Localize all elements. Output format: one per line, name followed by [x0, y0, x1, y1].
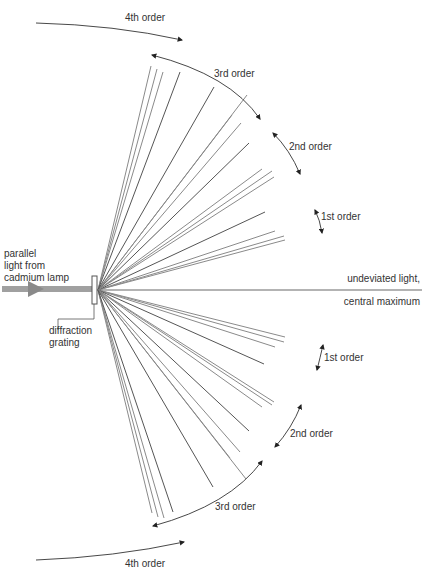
- label-1st-order-bottom: 1st order: [324, 352, 363, 364]
- diffracted-rays: [98, 66, 285, 518]
- label-grating: diffraction grating: [49, 325, 92, 349]
- label-3rd-order-top: 3rd order: [214, 68, 255, 80]
- diffracted-ray: [98, 87, 214, 290]
- grating-line-1: diffraction: [49, 325, 92, 337]
- diffracted-ray: [98, 290, 275, 347]
- diffracted-ray: [98, 290, 262, 407]
- source-line-3: cadmium lamp: [4, 272, 69, 284]
- arc-3rd-order-bottom: [153, 461, 262, 526]
- grating-line-2: grating: [49, 337, 92, 349]
- diffracted-ray: [98, 95, 247, 290]
- diffracted-ray: [98, 72, 163, 290]
- diffracted-ray: [98, 290, 274, 402]
- diffracted-ray: [98, 290, 264, 364]
- diffracted-ray: [98, 240, 285, 290]
- arc-2nd-order-bottom: [275, 405, 301, 447]
- diffracted-ray: [98, 290, 285, 337]
- arc-3rd-order-top: [152, 55, 260, 119]
- arc-2nd-order-top: [273, 133, 300, 174]
- diffracted-ray: [98, 290, 246, 479]
- diffraction-grating: [92, 276, 97, 304]
- diffraction-diagram: [0, 0, 428, 576]
- diffracted-ray: [98, 69, 157, 290]
- label-3rd-order-bottom: 3rd order: [215, 501, 256, 513]
- diffracted-ray: [98, 290, 213, 487]
- arc-4th-order-top: [36, 23, 182, 40]
- label-central-1: undeviated light,: [347, 273, 420, 285]
- diffracted-ray: [98, 290, 152, 513]
- diffracted-ray: [98, 177, 274, 290]
- label-4th-order-bottom: 4th order: [125, 558, 165, 570]
- source-line-1: parallel: [4, 248, 69, 260]
- label-1st-order-top: 1st order: [321, 211, 360, 223]
- diffracted-ray: [98, 231, 275, 290]
- label-source: parallel light from cadmium lamp: [4, 248, 69, 284]
- diffracted-ray: [98, 290, 164, 518]
- source-line-2: light from: [4, 260, 69, 272]
- label-central-2: central maximum: [344, 296, 420, 308]
- label-2nd-order-bottom: 2nd order: [290, 428, 333, 440]
- label-4th-order-top: 4th order: [125, 12, 165, 24]
- label-2nd-order-top: 2nd order: [289, 141, 332, 153]
- diffracted-ray: [98, 290, 173, 512]
- arc-1st-order-bottom: [317, 345, 323, 370]
